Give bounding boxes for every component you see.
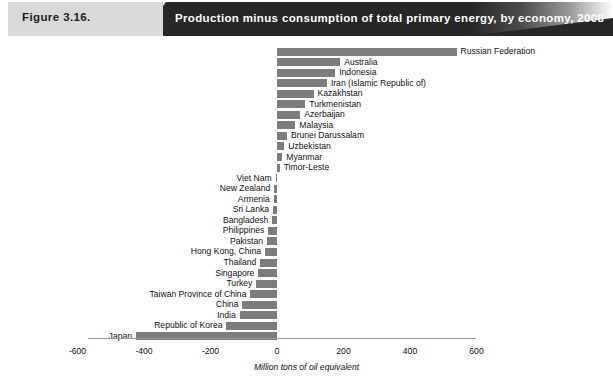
figure-title: Production minus consumption of total pr…	[175, 12, 604, 24]
figure-number-label: Figure 3.16.	[22, 11, 91, 23]
chart-plot-area: Russian FederationAustraliaIndonesiaIran…	[0, 44, 613, 344]
figure-banner: Figure 3.16. Production minus consumptio…	[0, 2, 613, 36]
x-tick-label: -400	[119, 346, 169, 356]
bar-label: Azerbaijan	[304, 109, 345, 120]
bar	[250, 290, 277, 298]
x-axis-title: Million tons of oil equivalent	[0, 362, 613, 372]
bar	[274, 195, 277, 203]
bar-label: Kazakhstan	[318, 88, 363, 99]
bar	[277, 79, 327, 87]
bar	[260, 259, 277, 267]
bar-label: Armenia	[238, 194, 270, 205]
bar-label: Japan	[109, 331, 132, 342]
bar-row: Pakistan	[0, 236, 613, 247]
bar-label: Indonesia	[339, 67, 376, 78]
bar-label: Taiwan Province of China	[149, 289, 246, 300]
figure-container: Figure 3.16. Production minus consumptio…	[0, 0, 613, 390]
bar-row: Turkmenistan	[0, 99, 613, 110]
bar	[277, 100, 305, 108]
bar	[136, 332, 277, 340]
bar-row: Australia	[0, 57, 613, 68]
bar	[258, 269, 277, 277]
bar-label: Myanmar	[286, 152, 322, 163]
bar	[256, 280, 277, 288]
bar-row: Turkey	[0, 278, 613, 289]
bar-row: Malaysia	[0, 120, 613, 131]
bar-row: Timor-Leste	[0, 162, 613, 173]
bar-row: Kazakhstan	[0, 88, 613, 99]
bar	[277, 132, 287, 140]
bar-row: Republic of Korea	[0, 320, 613, 331]
bar-row: Brunei Darussalam	[0, 130, 613, 141]
bar	[277, 121, 295, 129]
bar-row: Iran (Islamic Republic of)	[0, 78, 613, 89]
bar-row: Japan	[0, 331, 613, 342]
x-axis-line	[88, 338, 476, 339]
bar-label: Pakistan	[230, 236, 263, 247]
bar	[267, 237, 277, 245]
bar	[226, 322, 277, 330]
bar-row: Taiwan Province of China	[0, 289, 613, 300]
bar	[242, 301, 277, 309]
x-tick-label: 600	[452, 346, 502, 356]
bar-row: Bangladesh	[0, 215, 613, 226]
bar-label: Republic of Korea	[154, 320, 222, 331]
bar-row: Philippines	[0, 225, 613, 236]
bar-label: Uzbekistan	[288, 141, 331, 152]
bar	[277, 58, 340, 66]
bar-row: Viet Nam	[0, 173, 613, 184]
bar	[277, 48, 457, 56]
bar	[277, 69, 335, 77]
bar-label: Hong Kong, China	[191, 246, 261, 257]
x-tick-label: -600	[53, 346, 103, 356]
bar-row: China	[0, 299, 613, 310]
bar-label: Malaysia	[299, 120, 333, 131]
bar-row: Armenia	[0, 194, 613, 205]
bar	[277, 142, 284, 150]
bar-row: Singapore	[0, 268, 613, 279]
bar-row: Hong Kong, China	[0, 246, 613, 257]
x-tick-label: -200	[186, 346, 236, 356]
bar-row: Russian Federation	[0, 46, 613, 57]
bar-label: Sri Lanka	[233, 204, 269, 215]
bar	[274, 185, 277, 193]
bar-label: Brunei Darussalam	[291, 130, 364, 141]
bar-label: Viet Nam	[236, 173, 271, 184]
bar-row: Myanmar	[0, 152, 613, 163]
bar-label: Thailand	[223, 257, 256, 268]
x-tick-label: 0	[252, 346, 302, 356]
bar-row: Azerbaijan	[0, 109, 613, 120]
bar	[277, 153, 282, 161]
bar-row: New Zealand	[0, 183, 613, 194]
bar	[272, 216, 277, 224]
bar-row: Sri Lanka	[0, 204, 613, 215]
bar-row: India	[0, 310, 613, 321]
bar	[240, 311, 277, 319]
bar	[273, 206, 277, 214]
bar-label: Timor-Leste	[284, 162, 330, 173]
bar	[277, 164, 280, 172]
bar-label: Bangladesh	[223, 215, 268, 226]
bar-label: China	[216, 299, 238, 310]
bar-label: Turkmenistan	[309, 99, 361, 110]
bar-label: Australia	[344, 57, 377, 68]
bar	[276, 174, 277, 182]
bar	[268, 227, 277, 235]
bar	[265, 248, 277, 256]
bar-row: Indonesia	[0, 67, 613, 78]
bar-label: Iran (Islamic Republic of)	[331, 78, 426, 89]
bar-label: Singapore	[215, 268, 254, 279]
bar	[277, 111, 300, 119]
bar-label: India	[217, 310, 236, 321]
bar-row: Thailand	[0, 257, 613, 268]
bar-label: Turkey	[226, 278, 252, 289]
bar	[277, 90, 314, 98]
bar-label: Philippines	[223, 225, 265, 236]
bar-label: New Zealand	[220, 183, 271, 194]
x-tick-label: 400	[385, 346, 435, 356]
bar-row: Uzbekistan	[0, 141, 613, 152]
x-tick-label: 200	[319, 346, 369, 356]
bar-label: Russian Federation	[461, 46, 536, 57]
